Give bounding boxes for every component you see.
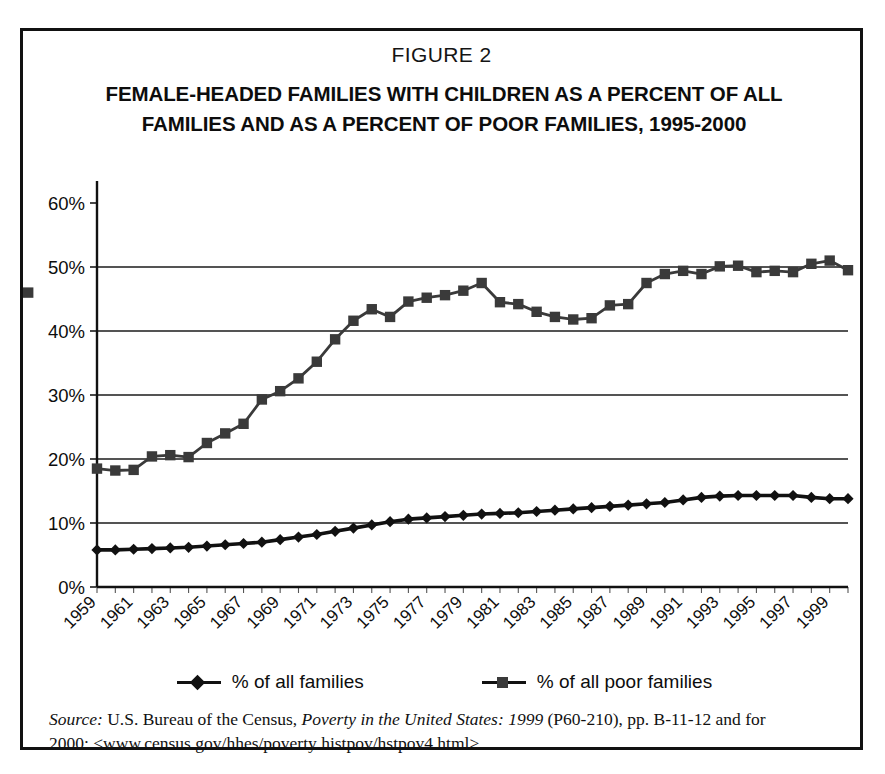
svg-text:1977: 1977 — [389, 592, 429, 632]
svg-text:40%: 40% — [48, 321, 85, 342]
svg-text:1983: 1983 — [499, 592, 539, 632]
axis-lines — [97, 181, 848, 587]
chart-legend: % of all families % of all poor families — [23, 665, 866, 699]
chart-plot-area: 0%10%20%30%40%50%60% 1959196119631965196… — [23, 161, 866, 661]
svg-text:20%: 20% — [48, 449, 85, 470]
svg-text:1989: 1989 — [609, 592, 649, 632]
svg-text:1999: 1999 — [792, 592, 832, 632]
svg-text:10%: 10% — [48, 513, 85, 534]
svg-text:1959: 1959 — [60, 592, 100, 632]
svg-text:30%: 30% — [48, 385, 85, 406]
svg-text:1973: 1973 — [316, 592, 356, 632]
line-chart-svg: 0%10%20%30%40%50%60% 1959196119631965196… — [23, 161, 866, 661]
svg-text:1961: 1961 — [96, 592, 136, 632]
data-series — [23, 255, 854, 555]
diamond-marker-icon — [177, 675, 221, 689]
legend-item-poor-families: % of all poor families — [482, 671, 712, 693]
svg-text:1963: 1963 — [133, 592, 173, 632]
svg-text:1985: 1985 — [536, 592, 576, 632]
svg-text:1979: 1979 — [426, 592, 466, 632]
svg-text:1997: 1997 — [756, 592, 796, 632]
legend-label-all-families: % of all families — [232, 671, 364, 693]
source-text-a: U.S. Bureau of the Census, — [103, 709, 302, 729]
svg-text:1967: 1967 — [206, 592, 246, 632]
svg-text:60%: 60% — [48, 193, 85, 214]
svg-text:1991: 1991 — [646, 592, 686, 632]
figure-frame: FIGURE 2 FEMALE-HEADED FAMILIES WITH CHI… — [20, 28, 863, 750]
source-publication-title: Poverty in the United States: 1999 — [302, 709, 544, 729]
svg-text:1971: 1971 — [279, 592, 319, 632]
legend-label-poor-families: % of all poor families — [537, 671, 712, 693]
square-marker-icon — [482, 675, 526, 689]
source-note: Source: U.S. Bureau of the Census, Pover… — [49, 707, 841, 755]
source-text-b: (P60-210), pp. B-11-12 and for — [543, 709, 765, 729]
svg-text:50%: 50% — [48, 257, 85, 278]
source-prefix: Source: — [49, 709, 103, 729]
figure-label: FIGURE 2 — [23, 43, 860, 67]
svg-text:1965: 1965 — [170, 592, 210, 632]
page-title: FEMALE-HEADED FAMILIES WITH CHILDREN AS … — [51, 79, 837, 139]
svg-text:1969: 1969 — [243, 592, 283, 632]
x-axis-labels: 1959196119631965196719691971197319751977… — [60, 592, 833, 632]
legend-item-all-families: % of all families — [177, 671, 364, 693]
svg-text:0%: 0% — [58, 577, 85, 598]
y-axis-ticks: 0%10%20%30%40%50%60% — [48, 193, 97, 598]
svg-text:1995: 1995 — [719, 592, 759, 632]
title-line-1: FEMALE-HEADED FAMILIES WITH CHILDREN AS … — [106, 82, 783, 105]
svg-text:1981: 1981 — [463, 592, 503, 632]
source-url-line: 2000: <www.census.gov/hhes/poverty histp… — [49, 731, 841, 755]
svg-text:1993: 1993 — [682, 592, 722, 632]
gridlines — [97, 267, 848, 523]
svg-text:1987: 1987 — [573, 592, 613, 632]
title-line-2: FAMILIES AND AS A PERCENT OF POOR FAMILI… — [142, 112, 747, 135]
svg-text:1975: 1975 — [353, 592, 393, 632]
